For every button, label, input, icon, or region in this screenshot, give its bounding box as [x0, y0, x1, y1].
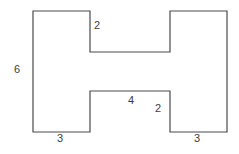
dimension-label-right-notch: 2 [155, 103, 161, 114]
h-shape-polygon [33, 11, 227, 132]
dimension-label-left-height: 6 [14, 64, 20, 75]
dimension-label-bottom-right-width: 3 [194, 133, 200, 144]
dimension-label-middle-bar-length: 4 [128, 95, 134, 106]
geometry-figure-canvas: 2 6 4 2 3 3 [0, 0, 239, 154]
dimension-label-top-notch: 2 [94, 20, 100, 31]
dimension-label-bottom-left-width: 3 [57, 133, 63, 144]
h-shape-outline-svg [0, 0, 239, 154]
